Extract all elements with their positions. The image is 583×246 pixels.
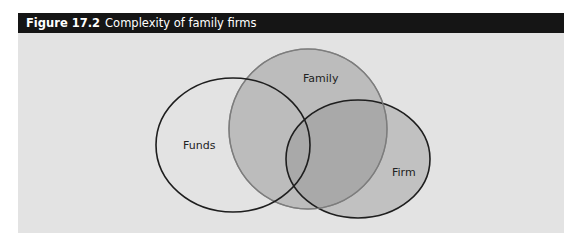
- venn-diagram: Funds Family Firm: [0, 0, 583, 246]
- funds-label: Funds: [183, 139, 216, 152]
- family-label: Family: [303, 72, 339, 85]
- firm-label: Firm: [392, 166, 416, 179]
- firm-set: [286, 100, 430, 218]
